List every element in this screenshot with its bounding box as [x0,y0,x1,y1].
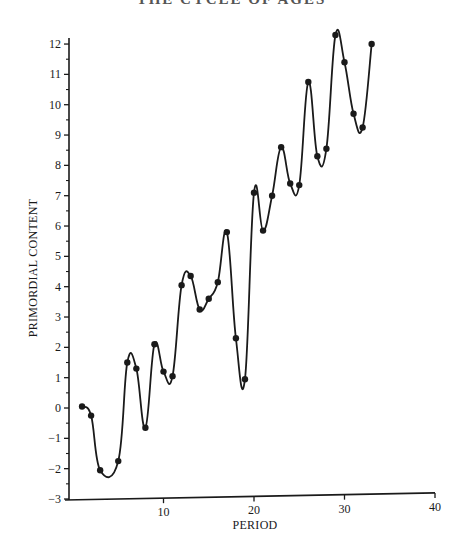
data-point [350,111,356,117]
y-tick-label: −3 [48,492,61,506]
y-tick-label: 10 [49,98,61,112]
data-curve [82,30,372,478]
data-point [79,403,85,409]
y-tick-label: −1 [48,431,61,445]
data-point [169,373,175,379]
y-tick-label: 6 [55,219,61,233]
x-axis-label: PERIOD [232,518,277,533]
data-point [269,193,275,199]
data-point [197,306,203,312]
y-tick-label: 4 [55,280,61,294]
y-tick-label: 0 [55,401,61,415]
x-axis-line [65,493,435,500]
data-point [206,296,212,302]
data-point [368,41,374,47]
y-tick-label: 12 [49,37,61,51]
data-point [233,335,239,341]
data-point [323,145,329,151]
line-chart: −3−2−10123456789101112 10203040 [0,0,463,555]
data-point [160,368,166,374]
x-tick-label: 40 [429,500,441,514]
y-tick-label: 11 [49,67,61,81]
data-point [215,279,221,285]
y-tick-label: 9 [55,128,61,142]
data-point [305,79,311,85]
data-point [287,180,293,186]
y-tick-label: 2 [55,340,61,354]
data-point [187,273,193,279]
data-point [178,282,184,288]
data-point [359,124,365,130]
data-point [142,425,148,431]
data-point [332,32,338,38]
y-tick-label: 7 [55,189,61,203]
data-point [341,59,347,65]
y-axis-ticks: −3−2−10123456789101112 [48,37,69,506]
data-point [296,182,302,188]
x-tick-label: 10 [158,505,170,519]
y-tick-label: −2 [48,462,61,476]
y-tick-label: 3 [55,310,61,324]
x-tick-label: 20 [248,503,260,517]
data-point [115,458,121,464]
data-point [97,467,103,473]
y-tick-label: 5 [55,249,61,263]
data-point [151,341,157,347]
data-point [124,359,130,365]
data-point [260,227,266,233]
y-axis-label: PRIMORDIAL CONTENT [26,199,41,338]
y-tick-label: 8 [55,158,61,172]
data-point [278,144,284,150]
y-tick-label: 1 [55,371,61,385]
data-point [314,153,320,159]
data-point [88,412,94,418]
x-tick-label: 30 [339,502,351,516]
data-point [133,365,139,371]
data-point [242,376,248,382]
data-point [251,189,257,195]
data-point [224,229,230,235]
